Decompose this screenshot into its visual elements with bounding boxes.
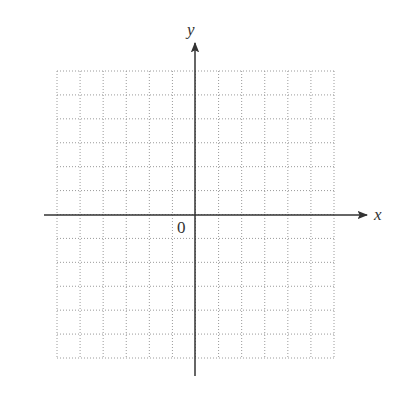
coordinate-plane: x y 0 (0, 0, 401, 401)
x-axis-label: x (373, 205, 382, 224)
origin-label: 0 (177, 218, 186, 237)
y-axis-label: y (185, 20, 195, 39)
